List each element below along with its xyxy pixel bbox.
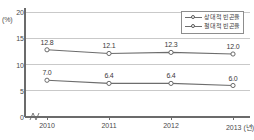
legend-item-absolute-poverty-rate: 절대적 빈곤율: [185, 22, 240, 31]
data-point-value-label: 7.0: [42, 69, 51, 76]
data-point-value-label: 6.4: [104, 72, 113, 79]
legend-item-relative-poverty-rate: 상대적 빈곤율: [185, 13, 240, 22]
data-point-value-label: 6.4: [166, 72, 175, 79]
legend-label: 절대적 빈곤율: [204, 22, 240, 31]
legend-line-marker-icon: [185, 14, 202, 21]
legend: 상대적 빈곤율 절대적 빈곤율: [181, 11, 244, 34]
legend-label: 상대적 빈곤율: [204, 13, 240, 22]
data-point-value-label: 12.3: [165, 41, 178, 48]
data-point-value-label: 12.0: [227, 43, 240, 50]
poverty-rate-line-chart: (%) 05101520 2010201120122013 (년) 12.812…: [0, 0, 254, 140]
data-point-value-label: 12.8: [41, 39, 54, 46]
data-point-value-label: 6.0: [228, 75, 237, 82]
data-point-value-label: 12.1: [103, 42, 116, 49]
legend-line-marker-icon: [185, 23, 202, 30]
